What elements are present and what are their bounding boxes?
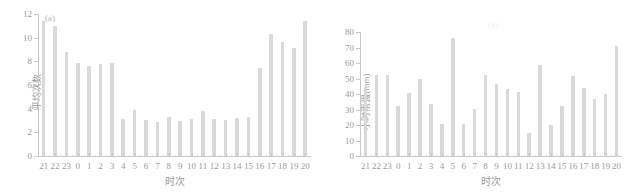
- y-tick: [34, 132, 38, 133]
- x-tick-label: 3: [429, 161, 434, 171]
- y-tick-label: 6: [28, 80, 33, 90]
- y-tick-label: 12: [23, 9, 32, 19]
- bar: [517, 92, 520, 156]
- y-tick: [356, 79, 360, 80]
- chart-panel-b: (b) 小时雨强(mm) 010203040506070802122230123…: [320, 0, 637, 193]
- y-tick-label: 80: [345, 27, 354, 37]
- x-tick-label: 20: [301, 161, 310, 171]
- y-tick: [356, 110, 360, 111]
- x-tick: [78, 153, 79, 157]
- bar: [538, 65, 541, 156]
- x-tick-minor: [84, 155, 85, 157]
- x-tick-minor: [152, 155, 153, 157]
- x-tick-label: 14: [547, 161, 556, 171]
- bar: [156, 122, 160, 156]
- x-tick: [101, 153, 102, 157]
- x-tick: [431, 153, 432, 157]
- y-tick: [34, 38, 38, 39]
- x-tick: [305, 153, 306, 157]
- x-tick-label: 19: [289, 161, 298, 171]
- x-tick-minor: [458, 155, 459, 157]
- x-tick: [486, 153, 487, 157]
- x-tick-minor: [404, 155, 405, 157]
- bar: [440, 124, 443, 156]
- x-tick-minor: [426, 155, 427, 157]
- bar: [247, 117, 251, 156]
- x-tick-minor: [186, 155, 187, 157]
- x-tick-label: 23: [383, 161, 392, 171]
- bar: [190, 119, 194, 156]
- bar: [429, 104, 432, 156]
- x-tick: [398, 153, 399, 157]
- x-tick-label: 6: [461, 161, 466, 171]
- x-tick-minor: [118, 155, 119, 157]
- x-tick-minor: [513, 155, 514, 157]
- bar: [269, 34, 273, 156]
- bar: [560, 106, 563, 156]
- bar: [396, 106, 399, 156]
- x-tick-minor: [175, 155, 176, 157]
- x-tick-minor: [600, 155, 601, 157]
- x-tick-minor: [502, 155, 503, 157]
- y-tick-label: 4: [28, 104, 33, 114]
- bar: [224, 120, 228, 156]
- bar: [484, 75, 487, 156]
- x-tick-label: 8: [483, 161, 488, 171]
- x-tick: [283, 153, 284, 157]
- bar: [65, 52, 69, 156]
- x-tick-label: 3: [110, 161, 115, 171]
- x-tick-minor: [288, 155, 289, 157]
- x-tick-minor: [72, 155, 73, 157]
- bar: [375, 75, 378, 156]
- x-tick: [540, 153, 541, 157]
- x-tick-label: 11: [199, 161, 208, 171]
- y-tick: [356, 63, 360, 64]
- x-tick: [606, 153, 607, 157]
- x-tick-minor: [436, 155, 437, 157]
- y-tick: [356, 125, 360, 126]
- bar: [53, 26, 57, 156]
- x-tick-label: 5: [132, 161, 137, 171]
- x-tick: [294, 153, 295, 157]
- x-tick-label: 21: [361, 161, 370, 171]
- panel-label-b: (b): [488, 20, 499, 30]
- x-axis-title-a: 时次: [38, 173, 311, 188]
- x-tick-minor: [480, 155, 481, 157]
- x-tick: [562, 153, 563, 157]
- x-tick-minor: [254, 155, 255, 157]
- x-tick-label: 13: [536, 161, 545, 171]
- x-tick-label: 21: [39, 161, 48, 171]
- x-tick-minor: [578, 155, 579, 157]
- x-tick-minor: [209, 155, 210, 157]
- x-tick-label: 0: [76, 161, 81, 171]
- y-tick-label: 0: [350, 151, 355, 161]
- y-tick-label: 50: [345, 74, 354, 84]
- bar: [167, 117, 171, 156]
- x-tick-label: 12: [210, 161, 219, 171]
- bar: [582, 88, 585, 156]
- x-tick-label: 15: [244, 161, 253, 171]
- x-tick: [146, 153, 147, 157]
- bar: [571, 76, 574, 156]
- bar: [281, 42, 285, 156]
- y-tick-label: 60: [345, 58, 354, 68]
- y-tick-label: 8: [28, 56, 33, 66]
- bar: [144, 120, 148, 156]
- x-tick-label: 2: [98, 161, 103, 171]
- x-tick-label: 20: [612, 161, 621, 171]
- y-tick-label: 10: [23, 33, 32, 43]
- y-tick: [34, 14, 38, 15]
- x-tick-label: 16: [568, 161, 577, 171]
- x-tick-minor: [535, 155, 536, 157]
- bar: [407, 93, 410, 156]
- x-tick-minor: [49, 155, 50, 157]
- x-tick-label: 2: [418, 161, 423, 171]
- x-tick-label: 7: [472, 161, 477, 171]
- x-tick: [89, 153, 90, 157]
- x-tick: [66, 153, 67, 157]
- bar: [549, 125, 552, 156]
- x-tick-minor: [371, 155, 372, 157]
- x-tick-minor: [266, 155, 267, 157]
- plot-area-a: 0246810122122230123456789101112131415161…: [38, 14, 311, 157]
- bar: [593, 99, 596, 156]
